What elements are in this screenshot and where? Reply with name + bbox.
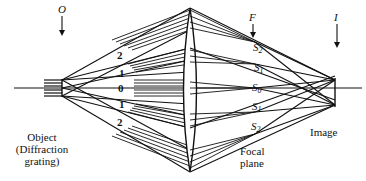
image-plane-marker: I bbox=[334, 12, 338, 23]
image-caption: Image bbox=[310, 126, 337, 138]
spot-label-s2-top: S2 bbox=[253, 42, 263, 56]
focal-plane-marker: F bbox=[249, 12, 256, 23]
focal-plane-caption: Focal plane bbox=[240, 145, 276, 169]
spot-label-s2-bottom: S2 bbox=[251, 121, 261, 135]
spot-label-s1-bottom: S1 bbox=[252, 101, 262, 115]
spot-label-s1-top: S1 bbox=[254, 62, 264, 76]
spot-label-s0: S0 bbox=[252, 82, 262, 96]
object-plane-marker: O bbox=[58, 4, 66, 15]
order-label-1-bottom: 1̄ bbox=[119, 99, 125, 110]
beam-order-1-bottom bbox=[128, 104, 190, 128]
order-label-2-bottom: 2 bbox=[117, 117, 123, 128]
order-label-0: 0 bbox=[118, 83, 124, 94]
beam-order-1-top bbox=[128, 48, 190, 72]
object-caption: Object (Diffraction grating) bbox=[12, 131, 72, 167]
order-label-2-top: 2 bbox=[117, 50, 123, 61]
arrowheads bbox=[59, 30, 340, 48]
order-label-1-top: 1 bbox=[119, 68, 125, 79]
